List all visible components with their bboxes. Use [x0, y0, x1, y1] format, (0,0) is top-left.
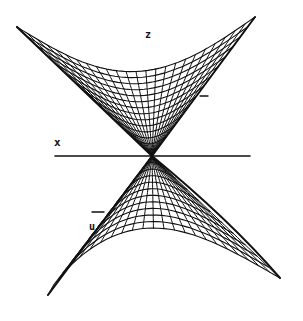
mesh-line — [17, 17, 255, 72]
mesh-line — [111, 156, 152, 237]
mesh-line — [152, 59, 186, 156]
mesh-line — [57, 50, 152, 156]
mesh-line — [67, 55, 152, 156]
mesh-line — [48, 228, 280, 295]
mesh-line — [152, 156, 206, 240]
mesh-line — [152, 156, 248, 260]
u-axis-label: u — [89, 222, 95, 232]
x-axis-label: x — [54, 137, 61, 148]
upper-right-rim — [152, 17, 255, 156]
mesh-plot — [0, 0, 303, 321]
mesh-line — [152, 31, 235, 156]
mesh-line — [152, 156, 238, 254]
mesh-line — [132, 156, 152, 230]
double-cone-mesh-figure: x z u — [0, 0, 303, 321]
z-axis-label: z — [145, 30, 151, 40]
lower-left-rim — [48, 156, 152, 295]
mesh-line — [152, 156, 154, 228]
mesh-line — [152, 37, 225, 156]
mesh-line — [47, 45, 152, 156]
mesh-line — [101, 156, 152, 242]
